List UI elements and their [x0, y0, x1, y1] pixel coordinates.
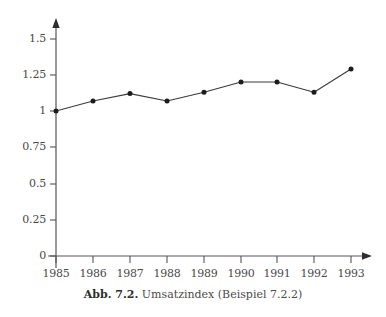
- y-tick-label-0: 0: [10, 249, 46, 262]
- y-tick-label-15: 1.5: [10, 32, 46, 45]
- x-tick-marks: [56, 256, 351, 263]
- caption-text: Umsatzindex (Beispiel 7.2.2): [142, 288, 302, 301]
- y-tick-label-1: 1: [10, 104, 46, 117]
- y-tick-label-075: 0.75: [10, 140, 46, 153]
- y-tick-label-025: 0.25: [10, 213, 46, 226]
- x-axis: [48, 252, 372, 259]
- figure-container: 0 0.25 0.5 0.75 1 1.25 1.5 1985 1986 198…: [0, 0, 386, 317]
- figure-caption: Abb. 7.2. Umsatzindex (Beispiel 7.2.2): [0, 288, 386, 301]
- y-axis: [52, 18, 59, 268]
- caption-label: Abb. 7.2.: [84, 288, 139, 301]
- y-tick-label-125: 1.25: [10, 68, 46, 81]
- x-tick-label-1993: 1993: [326, 267, 376, 280]
- y-tick-label-05: 0.5: [10, 177, 46, 190]
- y-tick-marks: [50, 39, 56, 256]
- data-point-markers: [54, 67, 354, 114]
